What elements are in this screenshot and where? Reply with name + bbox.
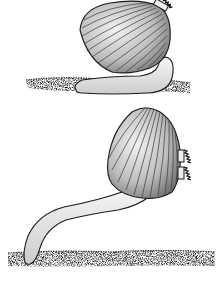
- cockle-illustration: [0, 0, 217, 288]
- shell-bottom: [108, 108, 181, 198]
- illustration: [0, 0, 217, 288]
- cockle-bottom: [8, 108, 215, 267]
- cockle-top: [26, 0, 190, 94]
- sediment-bottom: [8, 251, 215, 267]
- shell-top: [80, 1, 170, 73]
